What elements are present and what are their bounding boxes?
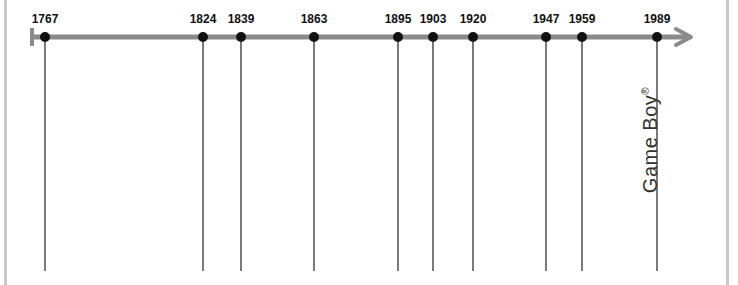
- event-dot: [393, 32, 403, 42]
- event-dot: [198, 32, 208, 42]
- year-label: 1959: [569, 12, 596, 26]
- annotation-game-boy: Game Boy®: [639, 87, 662, 193]
- event-dot: [40, 32, 50, 42]
- event-dot: [541, 32, 551, 42]
- event-dot: [652, 32, 662, 42]
- event-dot: [577, 32, 587, 42]
- annotation-text: Game Boy: [639, 95, 661, 193]
- year-label: 1824: [190, 12, 217, 26]
- year-label: 1863: [301, 12, 328, 26]
- year-label: 1920: [460, 12, 487, 26]
- year-label: 1767: [32, 12, 59, 26]
- event-dot: [428, 32, 438, 42]
- event-markers: [40, 32, 662, 271]
- timeline-diagram: [0, 0, 738, 285]
- year-label: 1839: [228, 12, 255, 26]
- timeline-axis: [32, 28, 691, 46]
- registered-mark: ®: [640, 87, 651, 95]
- event-dot: [309, 32, 319, 42]
- event-dot: [236, 32, 246, 42]
- year-label: 1895: [385, 12, 412, 26]
- year-label: 1989: [644, 12, 671, 26]
- year-label: 1947: [533, 12, 560, 26]
- event-dot: [468, 32, 478, 42]
- year-label: 1903: [420, 12, 447, 26]
